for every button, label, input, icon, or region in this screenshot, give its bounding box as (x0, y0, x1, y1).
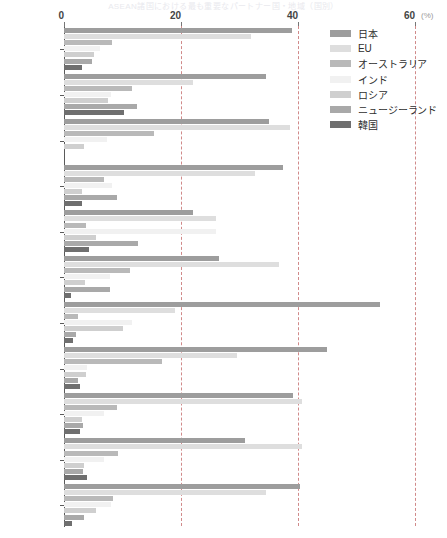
legend-swatch (330, 76, 351, 83)
bar (64, 241, 138, 246)
category-tick (60, 323, 64, 324)
bar (64, 359, 162, 364)
legend-item[interactable]: 韓国 (330, 117, 442, 132)
bar (64, 378, 78, 383)
bar (64, 411, 104, 416)
legend-item[interactable]: インド (330, 72, 442, 87)
legend-item[interactable]: オーストラリア (330, 56, 442, 71)
bar (64, 496, 113, 501)
legend-label: インド (358, 72, 388, 87)
bar (64, 92, 111, 97)
bar (64, 125, 290, 130)
category-tick (60, 505, 64, 506)
bar (64, 235, 96, 240)
bar (64, 86, 132, 91)
bar (64, 177, 104, 182)
bar (64, 46, 100, 51)
bar-group (64, 347, 415, 390)
bar (64, 429, 80, 434)
legend-label: EU (358, 43, 372, 54)
legend-item[interactable]: ニュージーランド (330, 102, 442, 117)
chart-legend: 日本EUオーストラリアインドロシアニュージーランド韓国 (330, 26, 442, 132)
bar (64, 338, 73, 343)
category-tick (60, 186, 64, 187)
bar (64, 74, 266, 79)
chart-title-strip: ASEAN諸国における最も重要なパートナー国・地域（国別） (0, 0, 447, 12)
bar (64, 521, 72, 526)
bar (64, 137, 107, 142)
bar (64, 451, 118, 456)
bar (64, 347, 327, 352)
bar (64, 110, 124, 115)
bar (64, 417, 82, 422)
bar (64, 320, 132, 325)
bar (64, 201, 82, 206)
bar (64, 247, 89, 252)
bar (64, 399, 302, 404)
bar (64, 256, 219, 261)
category-tick (60, 460, 64, 461)
bar (64, 287, 110, 292)
x-tick-label: 40 (287, 10, 300, 21)
bar (64, 195, 117, 200)
bar (64, 308, 175, 313)
bar (64, 65, 82, 70)
bar-group (64, 165, 415, 208)
bar (64, 508, 96, 513)
legend-swatch (330, 30, 351, 37)
bar (64, 490, 266, 495)
legend-item[interactable]: EU (330, 41, 442, 56)
bar-group (64, 302, 415, 345)
legend-swatch (330, 121, 351, 128)
bar (64, 293, 71, 298)
bar (64, 457, 104, 462)
bar (64, 165, 283, 170)
category-tick (60, 232, 64, 233)
bar (64, 171, 255, 176)
legend-item[interactable]: 日本 (330, 26, 442, 41)
legend-label: 韓国 (358, 117, 378, 132)
bar (64, 80, 193, 85)
legend-label: 日本 (358, 26, 378, 41)
bar (64, 463, 84, 468)
bar (64, 280, 85, 285)
bar (64, 384, 80, 389)
axis-unit-label: (%) (421, 11, 433, 20)
bar (64, 268, 130, 273)
bar (64, 372, 86, 377)
legend-label: オーストラリア (358, 56, 427, 71)
category-tick (60, 95, 64, 96)
bar (64, 216, 216, 221)
bar (64, 223, 86, 228)
legend-label: ロシア (358, 87, 388, 102)
bar (64, 393, 293, 398)
category-tick (60, 369, 64, 370)
bar (64, 314, 78, 319)
bar (64, 353, 237, 358)
bar (64, 405, 117, 410)
bar (64, 332, 76, 337)
bar (64, 189, 82, 194)
bar (64, 144, 84, 149)
category-tick (60, 49, 64, 50)
bar (64, 469, 83, 474)
legend-swatch (330, 60, 351, 67)
bar (64, 423, 83, 428)
bar (64, 40, 112, 45)
bar (64, 104, 137, 109)
bar (64, 484, 300, 489)
bar (64, 475, 87, 480)
bar (64, 302, 380, 307)
bar-group (64, 438, 415, 481)
bar (64, 365, 87, 370)
legend-item[interactable]: ロシア (330, 87, 442, 102)
bar (64, 229, 216, 234)
bar (64, 515, 84, 520)
x-tick-label: 0 (58, 10, 66, 21)
bar (64, 119, 269, 124)
category-tick (60, 141, 64, 142)
bar (64, 98, 108, 103)
legend-label: ニュージーランド (358, 102, 437, 117)
bar (64, 34, 251, 39)
bar-group (64, 393, 415, 436)
